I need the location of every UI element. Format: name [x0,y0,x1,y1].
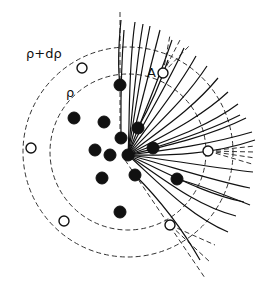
solid-node [96,172,108,184]
solid-node [122,149,134,161]
open-node-a [158,68,168,78]
open-node [203,146,213,156]
solid-node [114,206,126,218]
solid-node [171,173,183,185]
solid-node [98,116,110,128]
fiber-lines [119,20,255,260]
marker-label-a: A [147,66,156,79]
solid-node [68,112,80,124]
solid-node [129,169,141,181]
solid-node [115,132,127,144]
solid-node [114,79,126,91]
inner-radius-label: ρ [66,86,74,99]
open-node [165,220,175,230]
open-node [77,63,87,73]
solid-nodes [68,79,183,218]
solid-node [132,122,144,134]
solid-node [104,149,116,161]
open-node [59,216,69,226]
outer-radius-label: ρ+dρ [26,47,62,60]
fiber-bundle-diagram [0,0,267,290]
solid-node [147,142,159,154]
solid-node [89,144,101,156]
open-node [26,143,36,153]
